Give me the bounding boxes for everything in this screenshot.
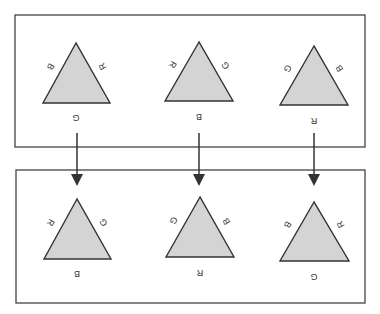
top-3-right: B (334, 63, 346, 73)
bottom-2-bottom: R (196, 268, 203, 278)
bottom-2-right: B (221, 216, 233, 226)
bottom-3-left: B (282, 219, 294, 229)
top-2-right: G (219, 60, 231, 71)
top-triangle-1 (43, 43, 110, 103)
top-2-bottom: B (196, 112, 202, 122)
bottom-2-left: G (168, 215, 180, 226)
top-3-left: G (282, 63, 294, 74)
bottom-triangle-3 (280, 202, 349, 261)
bottom-3-right: R (334, 219, 346, 230)
top-1-right: R (96, 61, 108, 72)
top-3-bottom: R (310, 116, 317, 126)
top-triangle-3 (280, 46, 348, 105)
bottom-1-right: G (97, 217, 109, 228)
top-1-left: B (45, 61, 57, 71)
bottom-3-bottom: G (310, 272, 317, 282)
bottom-1-left: R (44, 217, 56, 228)
top-2-left: R (166, 59, 178, 70)
triangle-rotation-diagram: B R G R G B G B R R G B G B R B R G (0, 0, 380, 314)
top-1-bottom: G (72, 113, 79, 123)
bottom-1-bottom: B (74, 269, 80, 279)
